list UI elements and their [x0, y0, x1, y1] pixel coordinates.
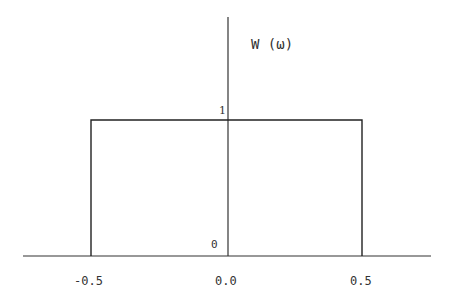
y-axis-label: W (ω): [251, 38, 293, 50]
window-function-curve: [91, 120, 362, 256]
x-tick-0.5: 0.5: [350, 275, 372, 287]
y-tick-0: 0: [211, 239, 218, 251]
x-tick-neg-0.5: -0.5: [74, 275, 103, 287]
plot-area: [0, 0, 451, 306]
y-tick-1: 1: [219, 105, 226, 117]
x-tick-0.0: 0.0: [215, 275, 237, 287]
